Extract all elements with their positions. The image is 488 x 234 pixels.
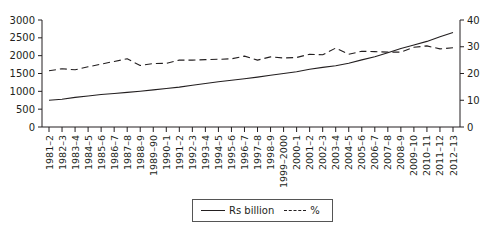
x-tick-label: 2006–7 [369,135,380,170]
x-tick-label: 1995–6 [226,135,237,170]
right-y-tick-label: 0 [467,122,473,133]
x-tick-label: 1983–4 [70,135,81,170]
series-line-rs-billion [49,33,453,101]
left-y-tick-label: 500 [16,104,35,115]
left-y-tick-label: 3000 [10,15,35,26]
x-tick-label: 1984–5 [83,135,94,170]
right-y-tick-label: 40 [467,15,480,26]
series-line-percent [49,46,453,71]
x-tick-label: 2007–8 [382,135,393,170]
x-tick-label: 2003–4 [330,135,341,170]
left-y-tick-label: 1500 [10,68,35,79]
left-y-tick-label: 2000 [10,50,35,61]
legend-item-rs-billion: Rs billion [201,205,274,216]
x-tick-label: 2004–5 [343,135,354,170]
left-y-tick-label: 2500 [10,32,35,43]
x-tick-label: 1989–90 [148,135,159,176]
x-tick-label: 1985–6 [96,135,107,170]
x-tick-label: 1990–1 [161,135,172,170]
x-tick-label: 1996–7 [239,135,250,170]
legend-label-percent: % [310,205,320,216]
x-tick-label: 2000–1 [291,135,302,170]
x-tick-label: 2002–3 [317,135,328,170]
left-y-tick-label: 1000 [10,86,35,97]
x-tick-label: 1994–5 [213,135,224,170]
x-tick-label: 1998–9 [265,135,276,170]
x-tick-label: 1987–8 [122,135,133,170]
right-y-tick-label: 30 [467,41,480,52]
x-tick-label: 1993–4 [200,135,211,170]
x-tick-label: 1999–2000 [278,135,289,188]
right-y-tick-label: 20 [467,68,480,79]
x-tick-label: 1997–8 [252,135,263,170]
x-tick-label: 2008–9 [395,135,406,170]
x-tick-label: 2010–11 [421,135,432,176]
legend-item-percent: % [284,205,320,216]
legend-label-rs-billion: Rs billion [229,205,274,216]
solid-line-swatch-icon [201,210,225,211]
chart-legend: Rs billion % [192,199,333,222]
x-tick-label: 1988–9 [135,135,146,170]
x-tick-label: 2001–2 [304,135,315,170]
x-tick-label: 1992–3 [187,135,198,170]
x-tick-label: 1982–3 [57,135,68,170]
right-y-tick-label: 10 [467,95,480,106]
x-tick-label: 1981–2 [44,135,55,170]
x-tick-label: 2005–6 [356,135,367,170]
dashed-line-swatch-icon [284,210,306,211]
x-tick-label: 2012–13 [448,135,459,176]
x-tick-label: 1991–2 [174,135,185,170]
x-tick-label: 2009–10 [408,135,419,176]
x-tick-label: 2011–12 [434,135,445,176]
x-tick-label: 1986–7 [109,135,120,170]
left-y-tick-label: 0 [29,122,35,133]
